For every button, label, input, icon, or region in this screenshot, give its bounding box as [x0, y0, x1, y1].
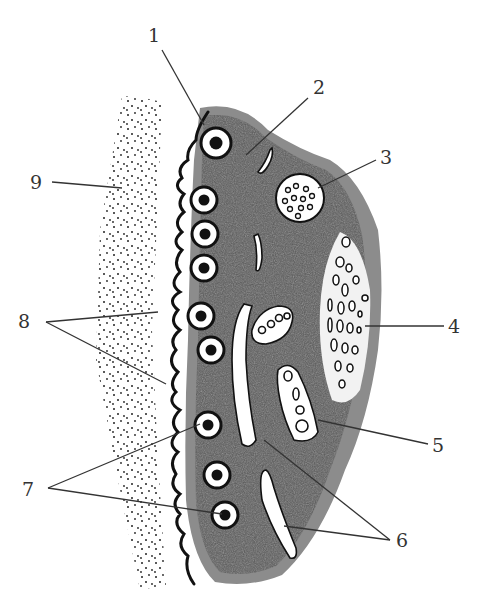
label-8: 8 [18, 312, 30, 331]
cell-diagram [0, 0, 483, 610]
label-6: 6 [396, 531, 408, 550]
label-1: 1 [148, 26, 160, 45]
label-3: 3 [380, 148, 392, 167]
label-4: 4 [448, 317, 460, 336]
granular-body [276, 174, 324, 222]
label-9: 9 [30, 173, 42, 192]
basement-layer [96, 96, 166, 590]
label-5: 5 [432, 436, 444, 455]
label-2: 2 [313, 78, 325, 97]
label-7: 7 [22, 480, 34, 499]
